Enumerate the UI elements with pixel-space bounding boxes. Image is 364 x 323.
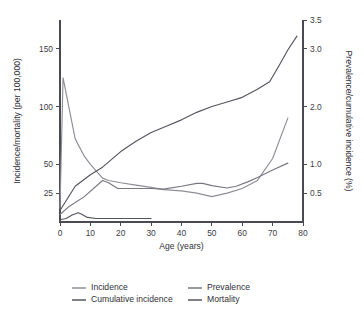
y2-axis-tick-label: 2.0 <box>310 102 322 112</box>
y2-axis-tick-label: 3.0 <box>310 44 322 54</box>
figure-container: 25501001500.51.02.03.03.5010203040506070… <box>0 0 364 323</box>
y-axis-tick-label: 25 <box>44 188 54 198</box>
axis-frame <box>60 20 303 222</box>
y-axis-tick-label: 100 <box>39 102 53 112</box>
chart-legend: IncidencePrevalenceCumulative incidenceM… <box>72 282 250 304</box>
series-line-mortality <box>60 213 151 220</box>
legend-label: Incidence <box>91 282 128 292</box>
y2-axis-tick-label: 0.5 <box>310 188 322 198</box>
y2-axis-title: Prevalence/cumulative incidence (%) <box>344 51 354 192</box>
series-group <box>60 36 297 220</box>
x-axis-tick-label: 60 <box>238 228 248 238</box>
legend-label: Mortality <box>207 294 240 304</box>
y2-axis-tick-label: 3.5 <box>310 15 322 25</box>
y2-axis-tick-label: 1.0 <box>310 159 322 169</box>
legend-label: Prevalence <box>207 282 250 292</box>
x-axis-tick-label: 70 <box>268 228 278 238</box>
y-axis-tick-label: 50 <box>44 159 54 169</box>
x-axis-tick-label: 80 <box>298 228 308 238</box>
legend-label: Cumulative incidence <box>91 294 173 304</box>
x-axis-tick-label: 50 <box>207 228 217 238</box>
y-axis-title: Incidence/mortality (per 100,000) <box>12 58 22 184</box>
x-axis-tick-label: 30 <box>146 228 156 238</box>
series-line-cumulative-incidence <box>60 36 297 210</box>
y-axis-tick-label: 150 <box>39 44 53 54</box>
x-axis-title: Age (years) <box>159 241 204 251</box>
line-chart: 25501001500.51.02.03.03.5010203040506070… <box>0 0 364 323</box>
axes-group <box>56 20 307 226</box>
x-axis-tick-label: 20 <box>116 228 126 238</box>
x-axis-tick-label: 10 <box>86 228 96 238</box>
x-axis-tick-label: 0 <box>58 228 63 238</box>
series-line-prevalence <box>60 163 288 214</box>
x-axis-tick-label: 40 <box>177 228 187 238</box>
